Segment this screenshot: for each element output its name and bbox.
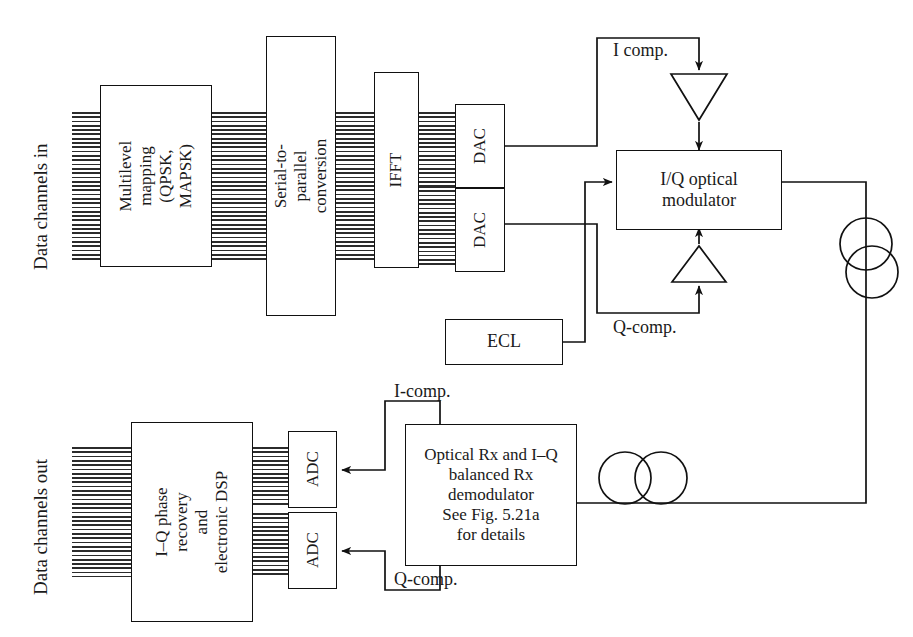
block-optical-rx-label: Optical Rx and I–Q balanced Rx demodulat…	[424, 445, 558, 545]
fiber-spool-rx-loop-2	[635, 452, 687, 504]
block-dac-q-label: DAC	[470, 212, 490, 248]
bus-mapping-to-s2p	[212, 112, 272, 260]
bus-ifft-to-dac1	[418, 112, 456, 192]
label-i-comp-rx: I-comp.	[394, 381, 450, 402]
diagram-canvas: Multilevel mapping (QPSK, MAPSK) Serial-…	[0, 0, 913, 637]
block-multilevel-mapping-label: Multilevel mapping (QPSK, MAPSK)	[116, 121, 196, 231]
block-serial-to-parallel[interactable]: Serial-to-parallel conversion	[266, 36, 336, 316]
wire-dac-i-to-amp	[505, 38, 699, 146]
block-adc-i-label: ADC	[302, 452, 322, 488]
wire-ecl-to-modulator	[563, 182, 612, 342]
wire-dac-q-to-amp	[505, 224, 699, 313]
fiber-spool-tx-loop-1	[840, 218, 892, 270]
wire-modulator-to-receiver	[577, 182, 866, 503]
block-dsp[interactable]: I–Q phase recovery and electronic DSP	[131, 422, 253, 622]
label-data-channels-out: Data channels out	[30, 459, 52, 595]
label-q-comp-rx: Q-comp.	[394, 569, 457, 590]
fiber-spool-tx-loop-2	[846, 246, 898, 298]
block-adc-i[interactable]: ADC	[288, 431, 337, 508]
block-dac-i[interactable]: DAC	[455, 104, 505, 188]
block-ifft-label: IFFT	[386, 153, 406, 188]
block-adc-q-label: ADC	[302, 533, 322, 569]
bus-s2p-to-ifft	[335, 112, 377, 260]
label-i-comp-tx: I comp.	[613, 40, 668, 61]
label-q-comp-tx: Q-comp.	[613, 317, 676, 338]
bus-dsp-to-adc1	[252, 447, 289, 507]
block-dac-q[interactable]: DAC	[455, 188, 505, 272]
bus-data-out	[72, 447, 132, 577]
block-serial-to-parallel-label: Serial-to-parallel conversion	[271, 139, 331, 214]
block-ifft[interactable]: IFFT	[374, 72, 419, 268]
bus-dsp-to-adc2	[252, 513, 289, 575]
block-adc-q[interactable]: ADC	[288, 512, 337, 589]
block-iq-optical-modulator-label: I/Q optical modulator	[660, 169, 737, 211]
block-dsp-label: I–Q phase recovery and electronic DSP	[152, 462, 232, 582]
bus-ifft-to-dac2	[418, 186, 456, 266]
block-optical-rx[interactable]: Optical Rx and I–Q balanced Rx demodulat…	[405, 424, 577, 566]
block-iq-optical-modulator[interactable]: I/Q optical modulator	[616, 150, 782, 230]
fiber-spool-rx-loop-1	[599, 452, 651, 504]
amplifier-i-triangle	[671, 74, 727, 120]
block-multilevel-mapping[interactable]: Multilevel mapping (QPSK, MAPSK)	[100, 85, 212, 267]
amplifier-q-triangle	[672, 246, 726, 282]
label-data-channels-in: Data channels in	[30, 143, 52, 270]
block-ecl-label: ECL	[487, 331, 521, 352]
block-dac-i-label: DAC	[470, 128, 490, 164]
block-ecl[interactable]: ECL	[445, 319, 563, 365]
